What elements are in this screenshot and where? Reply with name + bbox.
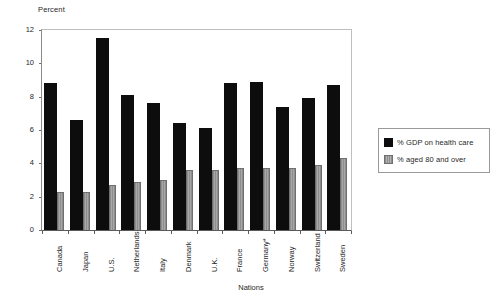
category-label: Japan: [81, 252, 90, 272]
x-tick-mark: [42, 231, 43, 234]
legend-item: % GDP on health care: [384, 134, 485, 151]
bar-gdp: [276, 107, 289, 230]
category-label: Denmark: [184, 242, 193, 272]
x-tick-mark: [274, 231, 275, 234]
category-label: U.S.: [107, 257, 116, 272]
x-tick-mark: [171, 231, 172, 234]
bar-aged: [263, 168, 270, 230]
x-tick-mark: [351, 231, 352, 234]
x-tick-mark: [119, 231, 120, 234]
bar-aged: [212, 170, 219, 230]
y-tick-label: 8: [20, 92, 34, 101]
bar-gdp: [173, 123, 186, 230]
bar-aged: [134, 182, 141, 230]
bar-group: [145, 30, 171, 230]
bar-aged: [315, 165, 322, 230]
y-tick-label: 12: [20, 25, 34, 34]
category-label: Italy: [158, 258, 167, 272]
x-axis-title: Nations: [0, 283, 502, 292]
bar-gdp: [96, 38, 109, 230]
bar-aged: [340, 158, 347, 230]
bar-group: [274, 30, 300, 230]
legend-label-gdp: % GDP on health care: [397, 138, 474, 147]
bar-aged: [57, 192, 64, 230]
y-tick-label: 4: [20, 158, 34, 167]
x-tick-mark: [68, 231, 69, 234]
category-label: Netherlands: [132, 232, 141, 272]
x-tick-mark: [222, 231, 223, 234]
bar-gdp: [199, 128, 212, 230]
category-label: Germany*: [261, 238, 270, 272]
bar-gdp: [121, 95, 134, 230]
legend-item: % aged 80 and over: [384, 151, 485, 168]
bar-series-container: [42, 30, 351, 230]
y-tick-label: 2: [20, 192, 34, 201]
bar-aged: [237, 168, 244, 230]
category-label: Norway: [287, 247, 296, 272]
legend-label-aged: % aged 80 and over: [397, 155, 466, 164]
bar-chart: Percent 024681012 CanadaJapanU.S.Netherl…: [0, 0, 502, 304]
bar-group: [325, 30, 351, 230]
y-tick-label: 0: [20, 225, 34, 234]
x-tick-mark: [248, 231, 249, 234]
category-label: France: [235, 249, 244, 272]
bar-gdp: [302, 98, 315, 230]
category-label: Canada: [55, 246, 64, 272]
x-tick-mark: [145, 231, 146, 234]
y-tick-label: 6: [20, 125, 34, 134]
bar-group: [300, 30, 326, 230]
y-tick-label: 10: [20, 58, 34, 67]
x-tick-mark: [325, 231, 326, 234]
bar-gdp: [44, 83, 57, 230]
x-tick-mark: [94, 231, 95, 234]
bar-group: [42, 30, 68, 230]
bar-group: [119, 30, 145, 230]
chart-legend: % GDP on health care % aged 80 and over: [378, 128, 490, 173]
bar-gdp: [250, 82, 263, 230]
bar-aged: [289, 168, 296, 230]
bar-group: [94, 30, 120, 230]
bar-aged: [186, 170, 193, 230]
bar-aged: [160, 180, 167, 230]
bar-group: [248, 30, 274, 230]
legend-swatch-aged-icon: [384, 155, 393, 164]
bar-gdp: [327, 85, 340, 230]
category-label: Switzerland: [313, 233, 322, 272]
bar-aged: [83, 192, 90, 230]
bar-gdp: [147, 103, 160, 230]
bar-gdp: [224, 83, 237, 230]
bar-group: [197, 30, 223, 230]
x-tick-mark: [300, 231, 301, 234]
category-label: U.K.: [210, 257, 219, 272]
bar-aged: [109, 185, 116, 230]
legend-swatch-gdp-icon: [384, 138, 393, 147]
bar-group: [171, 30, 197, 230]
bar-group: [222, 30, 248, 230]
bar-gdp: [70, 120, 83, 230]
x-tick-mark: [197, 231, 198, 234]
bar-group: [68, 30, 94, 230]
category-label: Sweden: [338, 245, 347, 272]
